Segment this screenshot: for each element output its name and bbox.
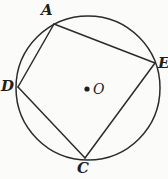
center-point-dot: [84, 86, 89, 91]
diagram-canvas: A E C D O: [0, 0, 168, 179]
chord-c-d: [18, 87, 85, 158]
circle-geometry-figure: [0, 0, 168, 179]
chord-e-c: [85, 63, 155, 158]
center-label-o: O: [93, 82, 104, 96]
vertex-label-a: A: [41, 3, 53, 18]
vertex-label-d: D: [1, 79, 14, 94]
vertex-label-e: E: [158, 56, 168, 71]
vertex-label-c: C: [77, 161, 89, 176]
chord-a-e: [54, 24, 155, 63]
